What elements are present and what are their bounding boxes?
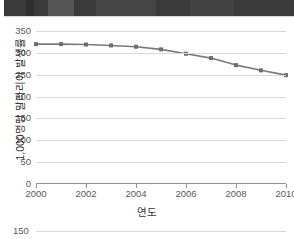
x-tick-label: 2010 (275, 189, 294, 199)
series-line-group (36, 31, 286, 184)
x-tick-label: 2002 (75, 189, 96, 199)
data-point-marker (109, 43, 113, 47)
plot-area (36, 31, 286, 184)
gridline (36, 97, 286, 98)
band-segment (190, 0, 234, 16)
data-point-marker (59, 42, 63, 46)
data-point-marker (84, 43, 88, 47)
x-axis-tick-labels: 200020022004200620082010 (0, 189, 294, 203)
malaria-incidence-line-chart: 050100150200250300350 200020022004200620… (0, 18, 294, 218)
data-point-marker (234, 63, 238, 67)
gridline (36, 140, 286, 141)
gridline (36, 31, 286, 32)
x-axis-title: 연도 (0, 204, 294, 219)
gridline (36, 75, 286, 76)
x-tick-label: 2000 (25, 189, 46, 199)
x-tick-label: 2006 (175, 189, 196, 199)
next-chart-partial: 150 (0, 224, 294, 239)
x-axis-line (36, 183, 286, 184)
gridline (36, 53, 286, 54)
band-segment (48, 0, 74, 16)
band-segment (96, 0, 156, 16)
x-tick-label: 2004 (125, 189, 146, 199)
gridline (36, 162, 286, 163)
gridline (36, 118, 286, 119)
next-chart-gridline (36, 231, 286, 232)
series-markers (34, 42, 288, 77)
x-tick-label: 2008 (225, 189, 246, 199)
cropped-dark-band (4, 0, 294, 16)
data-point-marker (34, 42, 38, 46)
screenshot-page: 050100150200250300350 200020022004200620… (0, 0, 294, 239)
data-point-marker (159, 47, 163, 51)
y-axis-title: 1,000명당 말라리아 발생률 (12, 15, 27, 185)
next-chart-y-tick-label: 150 (13, 226, 29, 236)
data-point-marker (134, 45, 138, 49)
band-segment (26, 0, 34, 16)
data-point-marker (209, 56, 213, 60)
data-point-marker (259, 68, 263, 72)
